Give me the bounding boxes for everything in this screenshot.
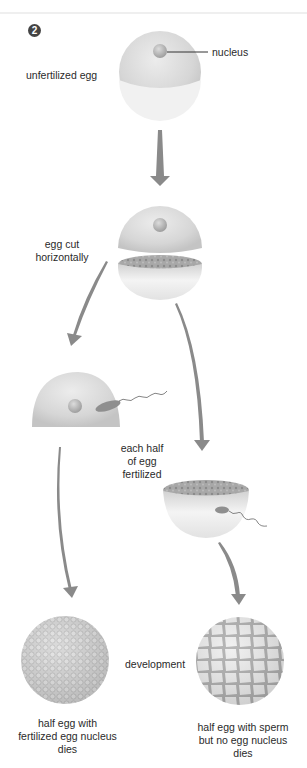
label-right-result-line3: dies xyxy=(183,747,303,760)
label-unfertilized-egg: unfertilized egg xyxy=(26,69,97,82)
label-right-result-line2: but no egg nucleus xyxy=(183,734,303,747)
step-number-badge: 2 xyxy=(28,24,41,37)
curved-arrow-left-icon xyxy=(67,261,108,346)
label-egg-cut-line1: egg cut xyxy=(28,238,96,251)
label-each-half-line2: of egg xyxy=(113,455,171,468)
curved-arrow-down-right-icon xyxy=(218,542,246,605)
embryo-large-cells xyxy=(196,617,284,705)
label-egg-cut-line2: horizontally xyxy=(28,251,96,264)
curved-arrow-down-left-icon xyxy=(57,447,78,598)
label-left-result: half egg with fertilized egg nucleus die… xyxy=(5,717,130,756)
unfertilized-egg xyxy=(119,31,208,121)
label-egg-cut: egg cut horizontally xyxy=(28,238,96,264)
label-each-half-fertilized: each half of egg fertilized xyxy=(113,442,171,481)
egg-cut-horizontally xyxy=(118,206,202,300)
label-left-result-line3: dies xyxy=(5,743,130,756)
label-left-result-line1: half egg with xyxy=(5,717,130,730)
label-each-half-line3: fertilized xyxy=(113,468,171,481)
label-right-result: half egg with sperm but no egg nucleus d… xyxy=(183,721,303,760)
label-each-half-line1: each half xyxy=(113,442,171,455)
half-egg-without-nucleus xyxy=(163,480,267,538)
half-egg-with-nucleus xyxy=(32,372,167,427)
label-right-result-line1: half egg with sperm xyxy=(183,721,303,734)
diagram-artwork xyxy=(0,0,307,768)
label-left-result-line2: fertilized egg nucleus xyxy=(5,730,130,743)
label-nucleus: nucleus xyxy=(212,46,248,59)
embryo-small-cells xyxy=(21,616,109,704)
arrow-down-icon xyxy=(150,130,170,186)
curved-arrow-right-icon xyxy=(175,303,210,451)
label-development: development xyxy=(125,658,185,671)
